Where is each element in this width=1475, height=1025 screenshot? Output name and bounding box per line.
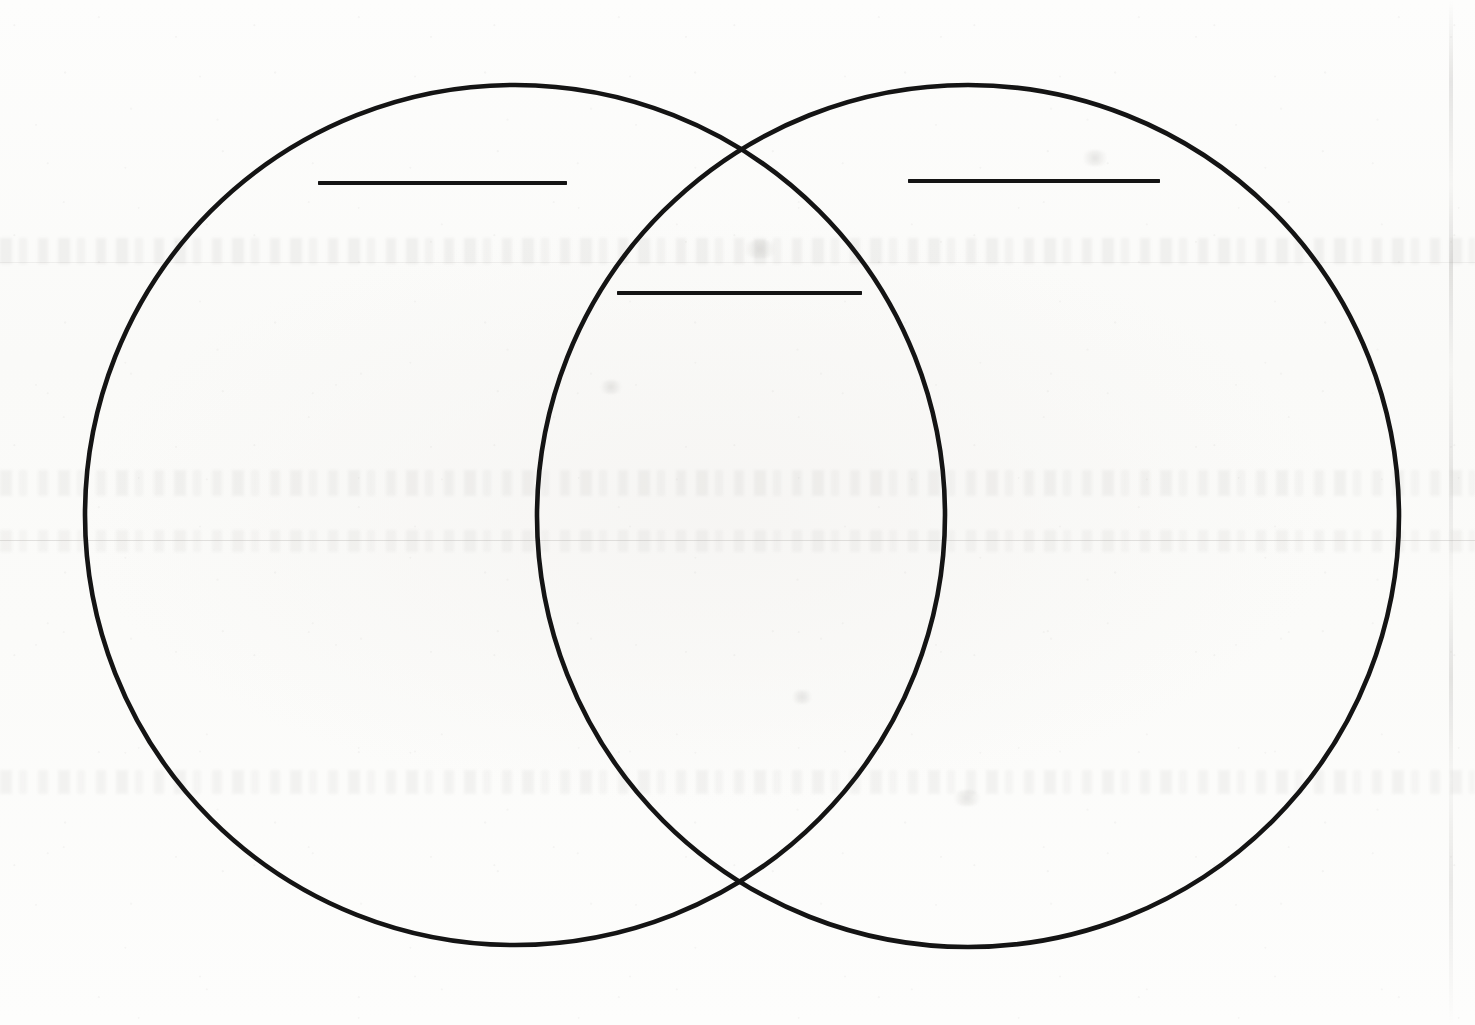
worksheet-page [0,0,1475,1025]
right-set-label-slot[interactable] [908,118,1160,184]
right-set-label-line[interactable] [908,179,1160,183]
venn-diagram [0,0,1475,1025]
left-set-label-slot[interactable] [318,120,567,186]
venn-right-circle[interactable] [537,85,1399,947]
intersection-label-line[interactable] [617,291,862,295]
left-set-label-line[interactable] [318,181,567,185]
venn-left-circle[interactable] [85,85,945,945]
intersection-label-slot[interactable] [617,230,862,296]
